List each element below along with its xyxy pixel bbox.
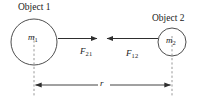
object-1-label: Object 1 xyxy=(18,3,50,13)
object-1-mass-label: m1 xyxy=(28,33,38,43)
object-2-mass-label: m2 xyxy=(166,36,176,46)
physics-force-diagram: Object 1 m1 Object 2 m2 F21 F12 r xyxy=(0,0,201,102)
force-21-subscript: 21 xyxy=(86,50,93,57)
object-2-mass-subscript: 2 xyxy=(173,39,176,46)
object-2-label: Object 2 xyxy=(152,14,184,24)
object-1-mass-subscript: 1 xyxy=(35,36,38,43)
force-12-label: F12 xyxy=(126,49,138,59)
force-21-label: F21 xyxy=(80,47,92,57)
force-12-subscript: 12 xyxy=(132,52,139,59)
separation-distance-label: r xyxy=(100,79,104,88)
